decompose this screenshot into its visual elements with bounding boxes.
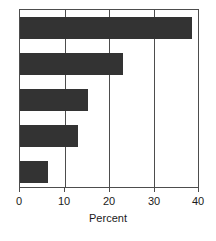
bar-5 [20, 161, 48, 183]
xtick-label-10: 10 [49, 195, 79, 208]
bar-4 [20, 125, 78, 147]
bar-2 [20, 53, 123, 75]
bar-3 [20, 89, 88, 111]
tick-mark-30 [154, 188, 155, 192]
xtick-label-40: 40 [183, 195, 213, 208]
xtick-label-0: 0 [4, 195, 34, 208]
xtick-label-20: 20 [94, 195, 124, 208]
tick-mark-40 [198, 188, 199, 192]
x-axis-title: Percent [0, 212, 216, 225]
xtick-label-30: 30 [139, 195, 169, 208]
tick-mark-0 [19, 188, 20, 192]
plot-area [19, 9, 199, 188]
bar-chart: 0 10 20 30 40 Percent [0, 0, 216, 241]
tick-mark-20 [109, 188, 110, 192]
bar-1 [20, 17, 192, 39]
tick-mark-10 [64, 188, 65, 192]
